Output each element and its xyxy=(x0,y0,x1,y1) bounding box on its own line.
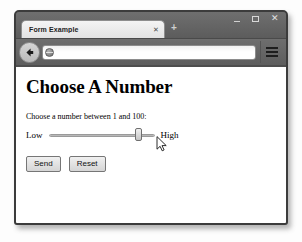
slider-row: Low High xyxy=(26,128,276,142)
hamburger-line-1 xyxy=(266,47,278,49)
page-content: Choose A Number Choose a number between … xyxy=(16,67,286,223)
browser-toolbar xyxy=(16,39,286,67)
send-button[interactable]: Send xyxy=(26,156,61,172)
address-bar[interactable] xyxy=(42,45,256,60)
reset-button[interactable]: Reset xyxy=(69,156,106,172)
tab-title: Form Example xyxy=(29,26,152,33)
browser-titlebar: Form Example ✕ + ✕ xyxy=(16,12,286,39)
new-tab-button[interactable]: + xyxy=(171,23,177,33)
hamburger-line-2 xyxy=(266,51,278,53)
slider-high-label: High xyxy=(161,130,179,140)
back-arrow-icon xyxy=(24,47,35,58)
window-controls: ✕ xyxy=(228,13,283,24)
tab-close-icon[interactable]: ✕ xyxy=(152,26,160,33)
slider-thumb[interactable] xyxy=(135,128,142,141)
back-button[interactable] xyxy=(19,42,40,63)
maximize-button[interactable] xyxy=(247,13,264,24)
minimize-button[interactable] xyxy=(228,13,245,24)
minimize-icon xyxy=(234,21,240,22)
browser-window: Form Example ✕ + ✕ xyxy=(14,10,288,225)
number-slider[interactable] xyxy=(49,128,155,142)
maximize-icon xyxy=(252,16,259,22)
hamburger-menu-button[interactable] xyxy=(260,41,283,63)
form-button-row: Send Reset xyxy=(26,156,276,172)
hamburger-line-3 xyxy=(266,55,278,57)
close-button[interactable]: ✕ xyxy=(266,13,283,24)
page-title: Choose A Number xyxy=(26,76,276,98)
browser-tab[interactable]: Form Example ✕ xyxy=(21,20,165,38)
screenshot-root: Form Example ✕ + ✕ xyxy=(0,0,302,242)
number-field-label: Choose a number between 1 and 100: xyxy=(26,112,276,121)
globe-icon xyxy=(45,48,54,57)
slider-low-label: Low xyxy=(26,130,43,140)
